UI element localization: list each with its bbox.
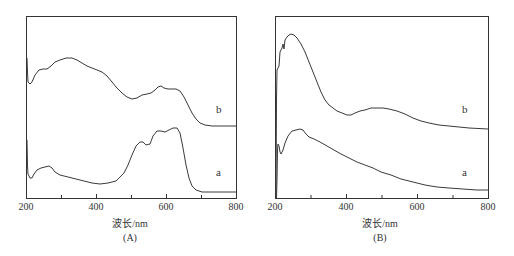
curve-a-a [27,128,236,192]
tick-label-400-a: 400 [89,201,104,212]
tick-label-600-a: 600 [159,201,174,212]
tick-label-200-b: 200 [268,201,283,212]
curve-label-a-a: a [216,166,221,178]
curve-label-a-b: a [462,166,467,178]
panel-label-a: (A) [123,232,137,243]
tick-label-600-b: 600 [410,201,425,212]
x-ticks-a [62,194,202,198]
curve-b-b [276,34,488,198]
panel-label-b: (B) [373,232,386,243]
x-axis-label-a: 波长/nm [112,215,148,230]
x-ticks-b [311,194,453,198]
tick-label-800-b: 800 [481,201,496,212]
curve-b-a [27,58,236,126]
curve-label-b-b: b [462,103,468,115]
chart-panel-b: b a 200 400 600 800 波长/nm (B) [257,0,514,256]
x-axis-label-b: 波长/nm [362,215,398,230]
tick-label-800-a: 800 [229,201,244,212]
curve-a-b [277,129,489,198]
tick-label-200-a: 200 [19,201,34,212]
curve-label-b-a: b [216,103,222,115]
tick-label-400-b: 400 [339,201,354,212]
plot-frame-a [27,17,237,199]
chart-panel-a: b a 200 400 600 800 波长/nm (A) [0,0,257,256]
